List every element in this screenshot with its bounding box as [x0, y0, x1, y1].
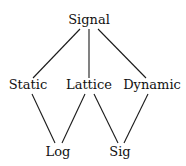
- edge-signal-static: [33, 29, 80, 78]
- node-sig: Sig: [109, 144, 130, 159]
- node-lattice: Lattice: [66, 77, 112, 92]
- edge-signal-dynamic: [98, 29, 146, 78]
- hierarchy-diagram: Signal Static Lattice Dynamic Log Sig: [0, 0, 186, 166]
- edge-static-log: [32, 94, 55, 143]
- edge-dynamic-sig: [124, 94, 148, 143]
- edge-lattice-sig: [94, 94, 118, 143]
- nodes: Signal Static Lattice Dynamic Log Sig: [9, 12, 181, 159]
- node-log: Log: [46, 144, 71, 159]
- node-static: Static: [9, 77, 48, 92]
- edge-lattice-log: [62, 94, 85, 143]
- node-dynamic: Dynamic: [123, 77, 181, 92]
- node-signal: Signal: [68, 12, 110, 27]
